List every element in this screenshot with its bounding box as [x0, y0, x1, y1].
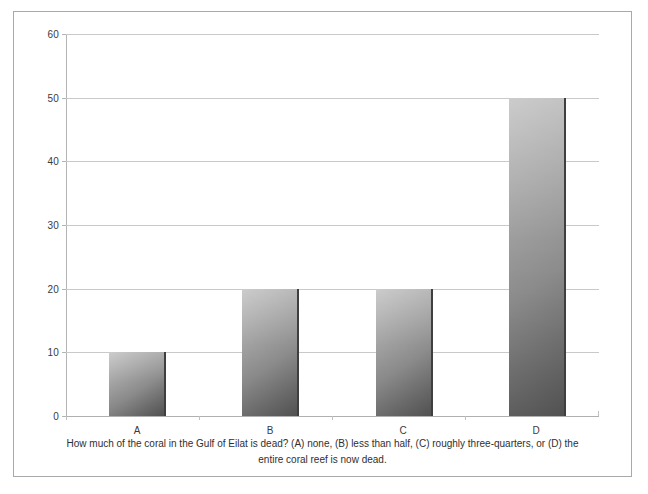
bar-A[interactable] — [109, 352, 166, 416]
xtick-mark-start — [66, 416, 67, 420]
y-tick-label-40: 40 — [47, 156, 59, 167]
chart-caption: How much of the coral in the Gulf of Eil… — [54, 436, 591, 468]
y-tick-label-30: 30 — [47, 220, 59, 231]
figure-frame: 60 50 40 30 20 10 0 A B C — [13, 11, 632, 477]
ytick-mark-50 — [62, 98, 66, 99]
xtick-mark-3 — [465, 416, 466, 420]
y-tick-label-60: 60 — [47, 29, 59, 40]
bar-D[interactable] — [509, 98, 566, 416]
x-tick-label-C: C — [399, 425, 406, 436]
x-tick-label-A: A — [134, 425, 141, 436]
ytick-mark-40 — [62, 161, 66, 162]
x-tick-label-D: D — [532, 425, 539, 436]
ytick-mark-10 — [62, 352, 66, 353]
xtick-mark-2 — [332, 416, 333, 420]
y-tick-label-20: 20 — [47, 283, 59, 294]
bar-C[interactable] — [376, 289, 433, 416]
x-tick-label-B: B — [267, 425, 274, 436]
xtick-mark-1 — [199, 416, 200, 420]
bar-B[interactable] — [242, 289, 299, 416]
y-tick-label-0: 0 — [53, 411, 59, 422]
x-axis-end-tick — [598, 411, 599, 416]
ytick-mark-20 — [62, 289, 66, 290]
y-tick-label-50: 50 — [47, 92, 59, 103]
plot-area: 60 50 40 30 20 10 0 A B C — [66, 34, 599, 416]
gridline-60 — [66, 34, 599, 35]
ytick-mark-60 — [62, 34, 66, 35]
ytick-mark-30 — [62, 225, 66, 226]
y-tick-label-10: 10 — [47, 347, 59, 358]
